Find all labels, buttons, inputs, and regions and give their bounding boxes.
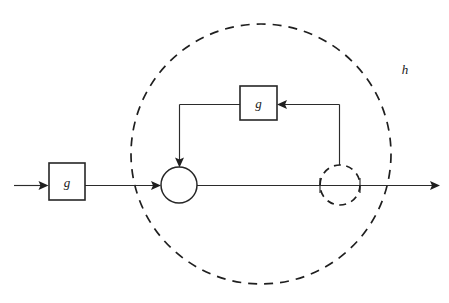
output-to-feedback-edge: [277, 100, 340, 165]
input-block: g: [49, 163, 85, 200]
input-arrow: [14, 181, 49, 190]
feedback-block: g: [240, 86, 277, 120]
outer-boundary-dashed-circle: [131, 24, 391, 284]
feedback-block-label: g: [255, 96, 262, 111]
diagram-canvas: g g h: [0, 0, 449, 303]
output-arrow: [340, 181, 440, 190]
input-block-label: g: [64, 175, 71, 190]
block-diagram-svg: g g h: [0, 0, 449, 303]
outer-boundary-label: h: [402, 62, 409, 77]
summing-junction-circle: [161, 167, 197, 203]
feedback-to-junction-edge: [175, 105, 240, 168]
block-to-junction-edge: [85, 181, 161, 190]
